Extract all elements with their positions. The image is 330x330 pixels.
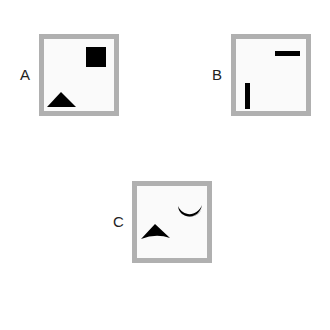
panel-b-frame [231, 34, 311, 116]
panel-label-a: A [20, 67, 30, 82]
triangle-shape [47, 92, 77, 108]
panel-c-frame [132, 181, 212, 263]
vertical-bar-shape [245, 83, 250, 109]
square-shape [86, 47, 106, 67]
arrowhead-triangle-shape [141, 223, 171, 241]
panel-label-b: B [212, 67, 222, 82]
panel-a-frame [39, 34, 119, 116]
panel-label-c: C [113, 214, 124, 229]
crescent-shape [177, 203, 203, 223]
horizontal-bar-shape [275, 51, 300, 56]
